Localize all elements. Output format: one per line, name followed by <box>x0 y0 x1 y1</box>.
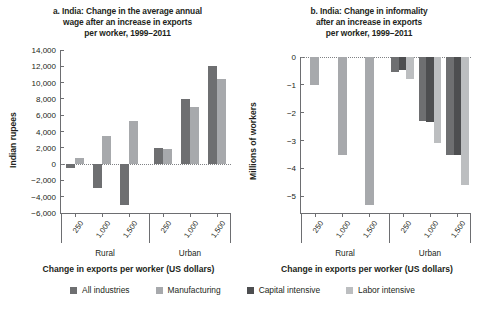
x-axis-tick-label: 1,000 <box>334 219 353 241</box>
y-axis-tick-mark <box>61 196 64 197</box>
x-axis-group-separator <box>470 213 471 243</box>
x-axis-group-separator <box>230 213 231 243</box>
panel-b-plot-area: 0−1−2−3−4−52501,0001,5002501,0001,500Rur… <box>301 57 471 213</box>
bar <box>129 121 138 164</box>
y-axis-tick-label: 10,000 <box>32 78 61 87</box>
x-axis-group-label: Urban <box>419 249 441 258</box>
y-axis-tick-label: 4,000 <box>36 127 61 136</box>
legend-item[interactable]: Labor intensive <box>346 285 415 295</box>
bar <box>338 57 347 155</box>
bar <box>181 99 190 164</box>
bar <box>310 57 319 85</box>
bar <box>66 164 75 168</box>
bar <box>446 57 453 155</box>
y-axis-tick-label: −6,000 <box>31 209 61 218</box>
y-axis-tick-label: 14,000 <box>32 46 61 55</box>
y-axis-tick-label: −2,000 <box>31 176 61 185</box>
bar <box>120 164 129 205</box>
x-axis-tick-label: 1,500 <box>121 219 140 241</box>
x-axis-tick-label: 1,000 <box>182 219 201 241</box>
x-axis-tick-label: 250 <box>306 219 325 241</box>
panel-b-x-axis-title: Change in exports per worker (US dollars… <box>253 264 481 274</box>
x-axis-tick-label: 250 <box>154 219 173 241</box>
bar <box>399 57 406 70</box>
panel-b-plot: 0−1−2−3−4−52501,0001,5002501,0001,500Rur… <box>300 57 471 214</box>
y-axis-tick-label: 12,000 <box>32 62 61 71</box>
y-axis-tick-label: 2,000 <box>36 143 61 152</box>
x-axis-tick-label: 1,000 <box>94 219 113 241</box>
legend-label: Manufacturing <box>168 285 221 295</box>
y-axis-tick-label: 0 <box>292 53 301 62</box>
y-axis-tick-mark <box>61 82 64 83</box>
y-axis-tick-label: −3 <box>287 136 301 145</box>
legend-label: Capital intensive <box>259 285 320 295</box>
zero-baseline <box>61 164 231 165</box>
x-axis-tick-mark <box>457 213 458 217</box>
legend-label: All industries <box>82 285 129 295</box>
y-axis-tick-mark <box>61 180 64 181</box>
bar <box>93 164 102 188</box>
chart-panel-a: a. India: Change in the average annual w… <box>0 0 243 280</box>
x-axis-tick-mark <box>190 213 191 217</box>
panel-a-x-axis-title: Change in exports per worker (US dollars… <box>16 264 241 274</box>
y-axis-tick-mark <box>61 147 64 148</box>
x-axis-tick-label: 1,500 <box>449 219 468 241</box>
x-axis-tick-label: 250 <box>394 219 413 241</box>
bar <box>365 57 374 205</box>
x-axis-tick-mark <box>102 213 103 217</box>
legend-swatch-icon <box>346 287 353 294</box>
x-axis-tick-mark <box>163 213 164 217</box>
legend-item[interactable]: Manufacturing <box>156 285 221 295</box>
y-axis-tick-mark <box>61 131 64 132</box>
bar <box>454 57 461 155</box>
y-axis-tick-label: −2 <box>287 108 301 117</box>
y-axis-tick-mark <box>301 112 304 113</box>
x-axis-group-separator <box>149 213 150 243</box>
y-axis-tick-label: 6,000 <box>36 111 61 120</box>
y-axis-tick-mark <box>301 168 304 169</box>
x-axis-group-separator <box>301 213 302 243</box>
legend-swatch-icon <box>156 287 163 294</box>
panel-a-title-line-1: a. India: Change in the average annual <box>18 6 237 17</box>
panel-a-plot-area: 14,00012,00010,0008,0006,0004,0002,0000−… <box>61 50 231 213</box>
bar <box>434 57 441 143</box>
panel-b-y-axis-label: Millions of workers <box>248 102 258 180</box>
x-axis-tick-mark <box>430 213 431 217</box>
bar <box>154 148 163 164</box>
x-axis-tick-mark <box>129 213 130 217</box>
legend-item[interactable]: All industries <box>70 285 129 295</box>
bar <box>208 66 217 164</box>
x-axis-tick-mark <box>217 213 218 217</box>
x-axis-tick-mark <box>342 213 343 217</box>
panel-b-title: b. India: Change in informality after an… <box>257 6 481 39</box>
y-axis-tick-label: −5 <box>287 192 301 201</box>
chart-panel-b: b. India: Change in informality after an… <box>243 0 485 280</box>
bar <box>419 57 426 121</box>
x-axis-group-label: Urban <box>179 249 201 258</box>
bar <box>461 57 468 185</box>
bar <box>75 158 84 164</box>
legend-item[interactable]: Capital intensive <box>247 285 320 295</box>
bar <box>406 57 413 79</box>
x-axis-tick-mark <box>403 213 404 217</box>
bar <box>217 79 226 165</box>
x-axis-tick-mark <box>75 213 76 217</box>
x-axis-tick-label: 1,500 <box>361 219 380 241</box>
bar <box>426 57 433 122</box>
panel-b-title-line-2: after an increase in exports <box>257 17 481 28</box>
x-axis-group-separator <box>389 213 390 243</box>
x-axis-group-label: Rural <box>95 249 115 258</box>
y-axis-tick-mark <box>61 115 64 116</box>
panel-a-title-line-3: per worker, 1999–2011 <box>18 28 237 39</box>
panel-a-title: a. India: Change in the average annual w… <box>18 6 237 39</box>
bar <box>163 149 172 164</box>
x-axis-tick-label: 250 <box>66 219 85 241</box>
legend-swatch-icon <box>70 287 77 294</box>
y-axis-tick-mark <box>61 50 64 51</box>
bar <box>391 57 398 72</box>
y-axis-tick-label: 8,000 <box>36 94 61 103</box>
legend-swatch-icon <box>247 287 254 294</box>
panel-a-title-line-2: wage after an increase in exports <box>18 17 237 28</box>
y-axis-tick-label: −4,000 <box>31 192 61 201</box>
y-axis-tick-label: −4 <box>287 164 301 173</box>
